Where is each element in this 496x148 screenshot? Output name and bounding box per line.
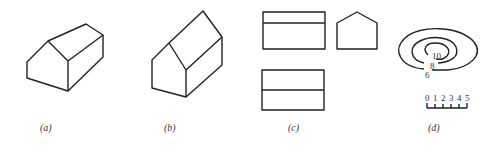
scale-label-2: 2 [441, 93, 446, 103]
caption-d: (d) [428, 122, 440, 133]
orthographic-views [262, 12, 377, 110]
side-view [337, 12, 377, 49]
scale-label-1: 1 [433, 93, 438, 103]
scale-label-0: 0 [425, 93, 430, 103]
contour-map [399, 29, 477, 70]
top-view [263, 12, 325, 49]
house-b-drawing [152, 11, 222, 97]
scale-label-3: 3 [449, 93, 454, 103]
contour-label-10: 10 [432, 51, 442, 61]
scale-label-4: 4 [457, 93, 462, 103]
caption-c: (c) [288, 122, 299, 133]
caption-a: (a) [40, 122, 52, 133]
caption-b: (b) [164, 122, 176, 133]
scale-label-5: 5 [465, 93, 470, 103]
contour-label-8: 8 [430, 61, 435, 71]
house-a-drawing [27, 24, 103, 91]
figure-canvas: 10 8 6 0 1 2 3 4 5 [0, 0, 496, 148]
contour-label-6: 6 [425, 70, 430, 80]
scale-bar [427, 103, 467, 108]
